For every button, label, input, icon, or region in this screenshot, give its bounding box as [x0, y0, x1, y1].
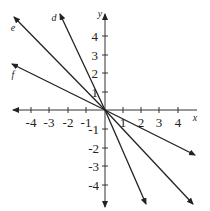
x-axis-label: x — [192, 112, 198, 123]
y-axis-label: y — [97, 8, 103, 19]
y-tick-label: 3 — [92, 48, 99, 63]
x-tick-label: -2 — [63, 115, 74, 130]
x-tick-label: 3 — [156, 115, 163, 130]
x-tick-label: -3 — [44, 115, 55, 130]
y-tick-label: 2 — [92, 66, 99, 81]
line-d: d — [52, 12, 147, 204]
y-tick-label: 4 — [92, 29, 99, 44]
y-tick-label: -2 — [88, 141, 99, 156]
y-tick-label: -1 — [88, 122, 99, 137]
x-tick-label: -4 — [26, 115, 37, 130]
y-tick-label: -3 — [88, 159, 99, 174]
x-tick-label: 4 — [175, 115, 182, 130]
line-d-label: d — [52, 12, 58, 23]
line-e-label: e — [11, 22, 16, 33]
y-axis: 4 3 2 1 -1 -2 -3 -4 y — [88, 8, 108, 207]
coordinate-plane: -4 -3 -2 -1 1 2 3 4 x 4 3 2 1 -1 -2 -3 -… — [0, 0, 210, 211]
line-f-label: f — [12, 69, 16, 80]
y-tick-label: -4 — [88, 178, 99, 193]
